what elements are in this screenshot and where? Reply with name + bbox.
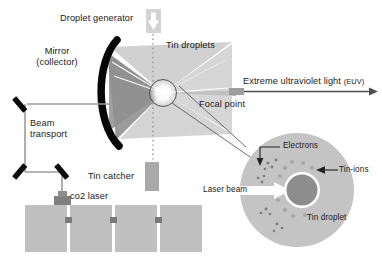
- label-beam-transport-line2: transport: [30, 129, 67, 139]
- tin-droplet-fill: [287, 175, 318, 206]
- block-connector: [155, 217, 162, 223]
- label-mirror-collector: Mirror (collector): [20, 46, 94, 67]
- machine-block: [70, 205, 112, 252]
- label-focal-point: Focal point: [199, 99, 245, 110]
- label-euv-abbrev: (EUV): [344, 77, 365, 86]
- label-electrons: Electrons: [283, 141, 318, 150]
- label-tin-droplets: Tin droplets: [166, 40, 215, 51]
- machine-block: [115, 205, 157, 252]
- label-tin-droplet: Tin droplet: [307, 213, 346, 222]
- label-tin-catcher: Tin catcher: [88, 171, 134, 182]
- machine-blocks: [25, 205, 202, 252]
- label-beam-transport: Beam transport: [30, 118, 67, 139]
- label-beam-transport-line1: Beam: [30, 118, 54, 128]
- co2-laser-head: [54, 191, 71, 205]
- focal-point-marker: [150, 80, 177, 107]
- focal-point-rect: [229, 88, 244, 95]
- label-euv: Extreme ultraviolet light (EUV): [243, 76, 364, 87]
- label-droplet-generator: Droplet generator: [60, 13, 133, 24]
- machine-block: [25, 205, 67, 252]
- tin-catcher-box: [145, 162, 159, 191]
- down-arrow-icon: [146, 9, 161, 33]
- label-co2-laser: co2 laser: [70, 191, 108, 202]
- machine-block: [160, 205, 202, 252]
- block-connector: [110, 217, 117, 223]
- euv-diagram-canvas: Droplet generator Tin droplets Mirror (c…: [0, 0, 382, 264]
- label-mirror-line1: Mirror: [45, 46, 70, 56]
- block-connector: [65, 217, 72, 223]
- label-mirror-line2: (collector): [36, 57, 77, 67]
- label-tin-ions: Tin-ions: [339, 165, 369, 174]
- right-arrow-icon-euv: [244, 88, 378, 96]
- label-euv-main: Extreme ultraviolet light: [243, 76, 341, 86]
- label-laser-beam: Laser beam: [203, 185, 247, 194]
